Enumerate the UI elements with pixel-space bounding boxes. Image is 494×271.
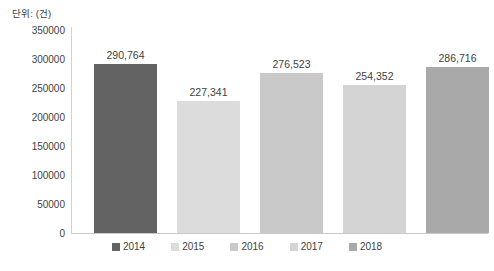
bar-value-label: 286,716 — [439, 52, 477, 64]
bar-value-label: 290,764 — [107, 49, 145, 61]
legend-label: 2016 — [241, 241, 263, 253]
legend-label: 2015 — [182, 241, 204, 253]
legend-swatch-icon — [171, 243, 179, 251]
bar-2016: 276,523 — [260, 73, 323, 233]
bar-2014: 290,764 — [94, 64, 157, 233]
bar-value-label: 254,352 — [356, 70, 394, 82]
chart-unit-label: 단위: (건) — [12, 8, 51, 20]
chart-legend: 20142015201620172018 — [0, 241, 494, 253]
y-axis-tick-label: 300000 — [32, 54, 65, 65]
bar-2015: 227,341 — [177, 101, 240, 233]
bar-2017: 254,352 — [343, 85, 406, 233]
y-axis-tick-label: 100000 — [32, 170, 65, 181]
bar-2018: 286,716 — [426, 67, 489, 233]
bar-value-label: 227,341 — [190, 86, 228, 98]
legend-label: 2018 — [360, 241, 382, 253]
y-axis-tick-label: 150000 — [32, 141, 65, 152]
y-axis-tick-label: 200000 — [32, 112, 65, 123]
legend-label: 2014 — [123, 241, 145, 253]
legend-label: 2017 — [301, 241, 323, 253]
plot-area: 3500003000002500002000001500001000005000… — [72, 30, 487, 233]
bar-value-label: 276,523 — [273, 58, 311, 70]
bar-chart: 단위: (건) 35000030000025000020000015000010… — [0, 0, 494, 271]
legend-swatch-icon — [290, 243, 298, 251]
y-axis-tick-label: 0 — [59, 228, 65, 239]
legend-swatch-icon — [112, 243, 120, 251]
legend-item-2014[interactable]: 2014 — [112, 241, 145, 253]
legend-item-2017[interactable]: 2017 — [290, 241, 323, 253]
x-axis-baseline — [71, 233, 488, 234]
legend-swatch-icon — [230, 243, 238, 251]
legend-item-2018[interactable]: 2018 — [349, 241, 382, 253]
legend-item-2016[interactable]: 2016 — [230, 241, 263, 253]
y-axis-tick-label: 50000 — [37, 199, 65, 210]
legend-item-2015[interactable]: 2015 — [171, 241, 204, 253]
legend-swatch-icon — [349, 243, 357, 251]
y-axis-tick-label: 350000 — [32, 25, 65, 36]
y-axis-tick-label: 250000 — [32, 83, 65, 94]
